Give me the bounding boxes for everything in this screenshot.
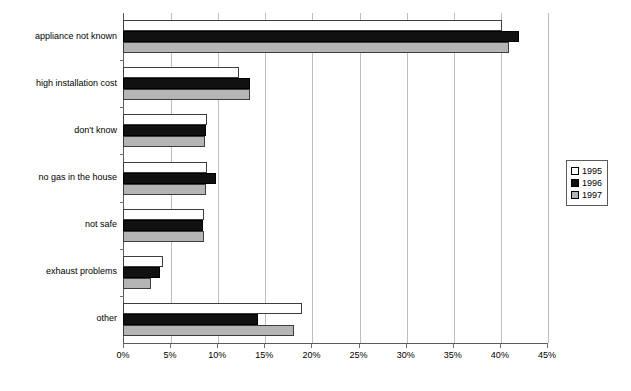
bar-1995	[123, 303, 302, 314]
y-tick-mark	[120, 107, 124, 108]
x-tick-mark	[123, 344, 124, 348]
bar-1996	[123, 173, 216, 184]
bar-1997	[123, 42, 509, 53]
x-tick-mark	[311, 344, 312, 348]
legend-label-1997: 1997	[582, 190, 602, 200]
category-label: don't know	[0, 125, 117, 135]
bar-1996	[123, 31, 519, 42]
category-label: not safe	[0, 219, 117, 229]
y-tick-mark	[120, 202, 124, 203]
x-tick-mark	[453, 344, 454, 348]
legend-item-1997: 1997	[571, 189, 602, 201]
category-label: other	[0, 313, 117, 323]
legend-item-1996: 1996	[571, 177, 602, 189]
x-tick-label: 15%	[255, 350, 273, 360]
y-tick-mark	[120, 60, 124, 61]
x-tick-mark	[359, 344, 360, 348]
x-tick-mark	[170, 344, 171, 348]
x-tick-mark	[500, 344, 501, 348]
x-tick-mark	[217, 344, 218, 348]
legend: 1995 1996 1997	[566, 160, 608, 206]
bar-1995	[123, 20, 502, 31]
legend-label-1996: 1996	[582, 178, 602, 188]
bar-1995	[123, 256, 163, 267]
x-tick-label: 5%	[164, 350, 177, 360]
category-label: no gas in the house	[0, 172, 117, 182]
bar-1997	[123, 231, 204, 242]
bar-1996	[123, 125, 206, 136]
bar-1997	[123, 136, 205, 147]
y-tick-mark	[120, 249, 124, 250]
x-tick-label: 35%	[444, 350, 462, 360]
x-axis-line	[123, 343, 548, 344]
bar-1995	[123, 114, 207, 125]
bar-1995	[123, 162, 207, 173]
bar-1996	[123, 220, 203, 231]
x-tick-label: 25%	[350, 350, 368, 360]
legend-swatch-1996-icon	[571, 179, 579, 187]
bar-1995	[123, 67, 239, 78]
legend-label-1995: 1995	[582, 166, 602, 176]
x-tick-label: 0%	[116, 350, 129, 360]
legend-swatch-1995-icon	[571, 167, 579, 175]
bar-1997	[123, 278, 151, 289]
x-tick-label: 40%	[491, 350, 509, 360]
legend-swatch-1997-icon	[571, 191, 579, 199]
category-label: appliance not known	[0, 31, 117, 41]
y-tick-mark	[120, 296, 124, 297]
legend-item-1995: 1995	[571, 165, 602, 177]
bar-1996	[123, 78, 250, 89]
bar-1997	[123, 184, 206, 195]
bar-1995	[123, 209, 204, 220]
bar-chart: appliance not knownhigh installation cos…	[0, 0, 631, 391]
x-tick-mark	[264, 344, 265, 348]
bar-1996	[123, 314, 258, 325]
bar-1996	[123, 267, 160, 278]
category-label: exhaust problems	[0, 266, 117, 276]
y-tick-mark	[120, 154, 124, 155]
x-tick-mark	[547, 344, 548, 348]
bar-1997	[123, 325, 294, 336]
x-tick-label: 45%	[538, 350, 556, 360]
x-tick-label: 10%	[208, 350, 226, 360]
x-tick-label: 30%	[397, 350, 415, 360]
x-tick-label: 20%	[302, 350, 320, 360]
x-tick-mark	[406, 344, 407, 348]
bar-1997	[123, 89, 250, 100]
category-label: high installation cost	[0, 78, 117, 88]
